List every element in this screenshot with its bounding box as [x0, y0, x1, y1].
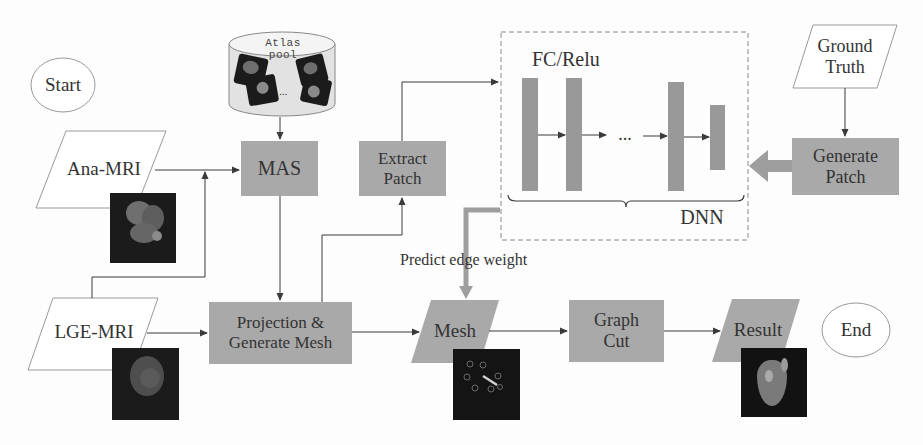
predict-edge-weight-arrow	[466, 210, 500, 288]
end-terminal	[822, 303, 890, 357]
mesh-image	[453, 349, 520, 420]
graph-cut-process	[569, 300, 664, 362]
dnn-layer-2	[566, 78, 582, 191]
ground-truth-input	[793, 25, 897, 88]
generate-patch-process	[792, 138, 899, 195]
dnn-brace	[508, 195, 744, 207]
ana-mri-image	[110, 193, 176, 263]
lge-mri-image	[112, 348, 179, 420]
thick-arrows	[459, 150, 792, 299]
mas-process	[241, 141, 318, 196]
atlas-image-2	[245, 74, 279, 107]
dnn-layer-3	[668, 82, 684, 191]
pipeline-diagram: Atlas pool ... Start End Ana-MRI LGE-MRI…	[0, 0, 923, 445]
result-image	[741, 348, 807, 417]
mesh-graph-icon	[453, 349, 520, 420]
atlas-image-4	[300, 75, 333, 106]
atlas-pool-label: Atlas pool	[248, 37, 318, 61]
dnn-layer-1	[522, 78, 538, 191]
dnn-layer-4	[710, 105, 725, 170]
projection-process	[209, 302, 352, 364]
extract-patch-process	[359, 141, 446, 196]
generate-patch-to-dnn-arrow	[749, 150, 792, 182]
start-terminal	[31, 58, 95, 112]
dnn-layers	[522, 78, 725, 191]
